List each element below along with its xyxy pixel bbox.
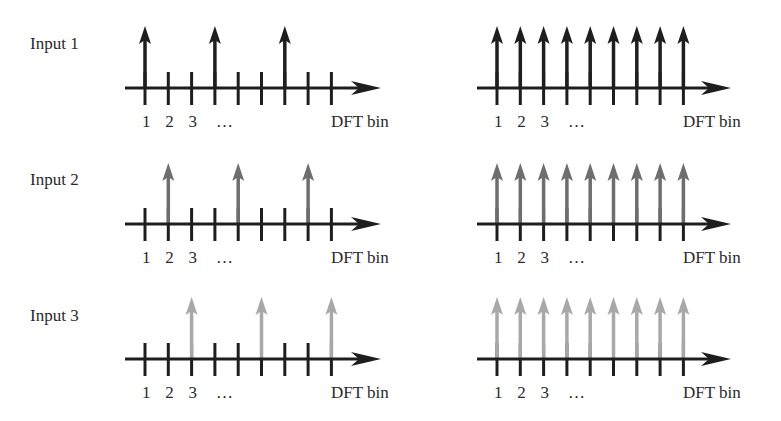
bin-number-label: …	[216, 383, 233, 403]
bin-number-label: …	[568, 112, 585, 132]
axis-label-dft-bin: DFT bin	[683, 112, 741, 132]
bin-number-label: 3	[541, 112, 550, 132]
bin-number-label: …	[216, 112, 233, 132]
bin-number-label: …	[568, 383, 585, 403]
panel-right-row-3	[477, 297, 731, 376]
axis-label-dft-bin: DFT bin	[683, 383, 741, 403]
axis-label-dft-bin: DFT bin	[331, 112, 389, 132]
axis-label-dft-bin: DFT bin	[331, 383, 389, 403]
bin-number-label: 2	[517, 112, 526, 132]
dft-bin-diagram	[0, 0, 781, 421]
bin-number-label: …	[568, 248, 585, 268]
bin-number-label: 3	[541, 383, 550, 403]
bin-number-label: 2	[165, 383, 174, 403]
bin-number-label: 2	[517, 248, 526, 268]
row-label-input-1: Input 1	[30, 34, 79, 54]
panel-left-row-1	[125, 26, 381, 105]
row-label-input-3: Input 3	[30, 306, 79, 326]
bin-number-label: 3	[189, 248, 198, 268]
bin-number-label: 3	[189, 383, 198, 403]
bin-number-label: 1	[494, 383, 503, 403]
bin-number-label: 3	[541, 248, 550, 268]
panel-right-row-2	[477, 163, 731, 241]
panel-left-row-3	[125, 297, 381, 376]
bin-number-label: 1	[142, 112, 151, 132]
bin-number-label: 1	[494, 112, 503, 132]
axis-label-dft-bin: DFT bin	[331, 248, 389, 268]
bin-number-label: 1	[142, 248, 151, 268]
panel-right-row-1	[477, 26, 731, 105]
axis-label-dft-bin: DFT bin	[683, 248, 741, 268]
bin-number-label: 1	[494, 248, 503, 268]
row-label-input-2: Input 2	[30, 170, 79, 190]
panel-left-row-2	[125, 163, 381, 241]
bin-number-label: 1	[142, 383, 151, 403]
bin-number-label: …	[216, 248, 233, 268]
bin-number-label: 2	[165, 248, 174, 268]
bin-number-label: 2	[517, 383, 526, 403]
bin-number-label: 3	[189, 112, 198, 132]
bin-number-label: 2	[165, 112, 174, 132]
